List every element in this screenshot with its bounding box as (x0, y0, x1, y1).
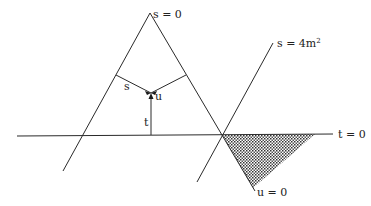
arrowhead-t-icon (149, 93, 154, 99)
label-u-var: u (155, 90, 162, 103)
label-s-var: s (124, 80, 130, 93)
label-s-threshold-base: s = 4m (277, 37, 317, 50)
left-boundary-line (63, 13, 150, 171)
label-t-zero: t = 0 (338, 128, 366, 141)
label-s-zero: s = 0 (153, 8, 182, 21)
label-s-threshold: s = 4m2 (277, 37, 321, 50)
s-perpendicular (116, 75, 151, 93)
label-t-var: t (144, 116, 149, 129)
shaded-region (222, 134, 315, 188)
label-s-threshold-exp: 2 (316, 37, 320, 45)
mandelstam-diagram: s = 0 s = 4m2 t = 0 u = 0 s u t (0, 0, 371, 206)
label-u-zero: u = 0 (257, 186, 287, 199)
u-zero-line (150, 13, 255, 191)
